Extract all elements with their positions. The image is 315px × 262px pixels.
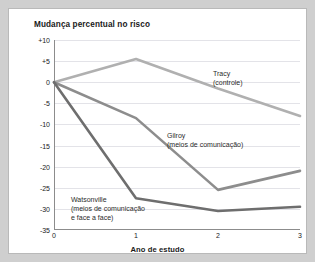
x-axis-tick-label: 2 <box>216 232 220 239</box>
gridline <box>55 167 300 168</box>
y-axis-tick-labels: +10+50-5-10-15-20-25-30-35 <box>26 40 50 230</box>
gridline <box>55 61 300 62</box>
x-axis-tick-label: 0 <box>52 232 56 239</box>
gridline <box>55 188 300 189</box>
y-axis-tick-label: +5 <box>26 58 50 65</box>
y-axis-tick-label: -5 <box>26 100 50 107</box>
y-axis-tick-label: -35 <box>26 227 50 234</box>
chart-figure: Mudança percentual no risco +10+50-5-10-… <box>8 8 307 254</box>
series-label-gilroy-line1: Gilroy <box>167 131 243 140</box>
gridline <box>55 82 300 83</box>
series-label-tracy-line1: Tracy <box>213 69 243 78</box>
x-axis-tick-label: 3 <box>298 232 302 239</box>
y-axis-tick-label: -15 <box>26 142 50 149</box>
y-axis-tick-label: +10 <box>26 37 50 44</box>
y-axis-tick-label: -30 <box>26 205 50 212</box>
y-axis-tick-label: -10 <box>26 121 50 128</box>
series-label-tracy: Tracy (controle) <box>213 69 243 87</box>
y-axis-tick-label: -20 <box>26 163 50 170</box>
y-axis-tick-label: 0 <box>26 79 50 86</box>
x-axis-tick-labels: 0123 <box>54 232 300 244</box>
series-label-gilroy: Gilroy (meios de comunicação) <box>167 131 243 149</box>
gridline <box>55 124 300 125</box>
gridline <box>55 40 300 41</box>
y-axis-tick-label: -25 <box>26 184 50 191</box>
series-label-watsonville-line1: Watsonville <box>71 195 145 204</box>
x-axis-tick-label: 1 <box>134 232 138 239</box>
series-label-watsonville-line2: (meios de comunicação <box>71 204 145 213</box>
series-label-watsonville-line3: e face a face) <box>71 213 145 222</box>
series-label-watsonville: Watsonville (meios de comunicação e face… <box>71 195 145 223</box>
series-label-gilroy-line2: (meios de comunicação) <box>167 140 243 149</box>
series-label-tracy-line2: (controle) <box>213 78 243 87</box>
x-axis-title: Ano de estudo <box>9 245 306 254</box>
chart-title: Mudança percentual no risco <box>34 20 150 29</box>
gridline <box>55 103 300 104</box>
